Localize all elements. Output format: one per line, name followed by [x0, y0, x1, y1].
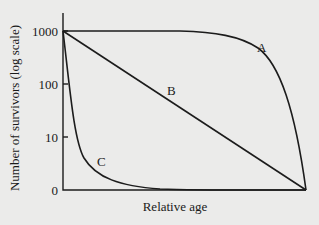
- y-tick-label-10: 10: [45, 130, 58, 145]
- y-tick-label-1000: 1000: [32, 24, 58, 39]
- x-axis-title: Relative age: [143, 199, 208, 214]
- curve-label-a: A: [257, 40, 267, 55]
- y-tick-label-100: 100: [39, 77, 59, 92]
- curve-label-b: B: [167, 83, 176, 98]
- curve-label-c: C: [97, 154, 106, 169]
- y-axis-title: Number of survivors (log scale): [7, 25, 22, 191]
- y-tick-label-0: 0: [52, 183, 59, 198]
- survivorship-chart: 1000 100 10 0 Number of survivors (log s…: [0, 0, 319, 225]
